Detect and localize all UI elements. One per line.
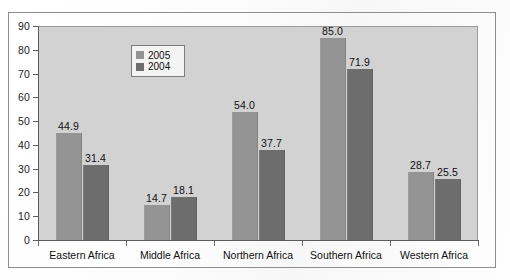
y-axis-tick-mark [33,192,38,193]
y-axis-tick-label: 10 [2,210,30,222]
category-label: Northern Africa [214,249,302,261]
bar-2004-northern-africa [259,150,285,240]
y-axis-tick-label: 80 [2,44,30,56]
y-axis-tick-label: 90 [2,20,30,32]
bar-value-label: 31.4 [76,152,116,164]
x-axis-tick-mark [214,241,215,246]
plot-wrapper: 44.931.414.718.154.037.785.071.928.725.5 [38,26,478,240]
bar-2004-middle-africa [171,197,197,240]
y-axis-tick-mark [33,145,38,146]
y-axis-tick-label: 0 [2,234,30,246]
y-axis-tick-mark [33,74,38,75]
bar-2005-western-africa [408,172,434,240]
y-axis-tick-mark [33,97,38,98]
bar-value-label: 54.0 [225,99,265,111]
bar-2005-middle-africa [144,205,170,240]
bar-2004-western-africa [435,179,461,240]
bar-value-label: 37.7 [252,137,292,149]
chart-page: 44.931.414.718.154.037.785.071.928.725.5… [0,0,510,280]
y-axis-labels: 9080706050403020100 [0,0,38,280]
chart-legend: 2005 2004 [131,45,185,77]
y-axis-tick-label: 20 [2,186,30,198]
legend-swatch-2005 [136,51,144,59]
category-label: Southern Africa [302,249,390,261]
bar-value-label: 18.1 [164,184,204,196]
x-axis-tick-mark [302,241,303,246]
bar-2005-eastern-africa [56,133,82,240]
y-axis-tick-mark [33,121,38,122]
category-label: Middle Africa [126,249,214,261]
legend-label-2004: 2004 [148,61,170,72]
y-axis-tick-mark [33,216,38,217]
bar-2004-southern-africa [347,69,373,240]
bar-value-label: 25.5 [428,166,468,178]
y-axis-tick-label: 70 [2,68,30,80]
y-axis-tick-mark [33,50,38,51]
legend-item-2004: 2004 [136,61,179,72]
bar-2004-eastern-africa [83,165,109,240]
x-axis-tick-mark [390,241,391,246]
y-axis-tick-label: 30 [2,163,30,175]
x-axis-tick-mark [126,241,127,246]
category-label: Eastern Africa [38,249,126,261]
y-axis-tick-mark [33,169,38,170]
legend-label-2005: 2005 [148,50,170,61]
y-axis-tick-label: 60 [2,91,30,103]
y-axis-line [38,26,39,241]
y-axis-tick-label: 50 [2,115,30,127]
y-axis-tick-label: 40 [2,139,30,151]
bar-2005-northern-africa [232,112,258,240]
x-axis-tick-mark [478,241,479,246]
bar-value-label: 44.9 [49,120,89,132]
category-label: Western Africa [390,249,478,261]
bar-value-label: 85.0 [313,25,353,37]
x-axis-tick-mark [38,241,39,246]
legend-swatch-2004 [136,63,144,71]
bar-2005-southern-africa [320,38,346,240]
legend-item-2005: 2005 [136,50,179,61]
bar-value-label: 71.9 [340,56,380,68]
x-axis-line [38,240,479,241]
y-axis-tick-mark [33,26,38,27]
